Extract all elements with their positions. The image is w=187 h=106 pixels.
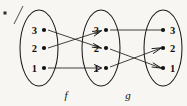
left-node-label-3: 3 [32,25,37,36]
left-set-oval [20,10,58,86]
mapping-label-g: g [125,89,131,101]
left-node-dot-1 [42,66,46,70]
left-node-label-1: 1 [32,63,37,74]
corner-dot [4,12,7,15]
right-node-label-2: 2 [170,43,175,54]
left-set: 3 2 1 [20,10,58,86]
right-node-label-1: 1 [170,63,175,74]
diagram-canvas: 3 2 1 3 2 1 3 2 1 [0,0,187,106]
right-node-dot-3 [161,28,165,32]
edge-g-1-to-2 [110,48,161,67]
left-node-dot-2 [42,46,46,50]
mapping-label-f: f [64,89,69,101]
scan-corner-mark [4,6,24,24]
middle-node-dot-1 [104,66,108,70]
left-node-label-2: 2 [32,43,37,54]
middle-node-dot-3 [104,28,108,32]
corner-slash [14,6,23,24]
right-set: 3 2 1 [144,10,182,86]
middle-node-dot-2 [104,46,108,50]
function-composition-figure: 3 2 1 3 2 1 3 2 1 [0,0,187,106]
left-node-dot-3 [42,28,46,32]
right-node-label-3: 3 [170,25,175,36]
mapping-g-edges [110,30,162,68]
